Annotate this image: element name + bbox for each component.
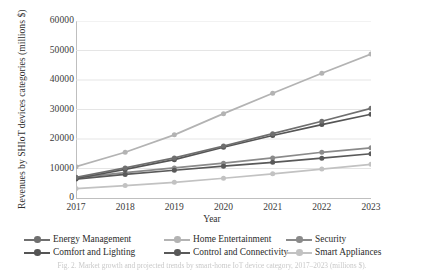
x-axis-tick-label: 2017: [56, 202, 96, 213]
data-point: [172, 180, 177, 185]
data-point: [319, 167, 324, 172]
data-point: [123, 183, 128, 188]
legend-item[interactable]: Security: [286, 234, 346, 245]
legend-color-swatch: [164, 248, 190, 257]
data-point: [369, 112, 372, 117]
x-axis-tick-label: 2021: [253, 202, 293, 213]
data-point: [221, 164, 226, 169]
chart-legend: Energy ManagementHome EntertainmentSecur…: [24, 234, 400, 260]
data-point: [270, 91, 275, 96]
data-point: [369, 162, 372, 167]
data-point: [172, 168, 177, 173]
x-axis-tick-label: 2020: [204, 202, 244, 213]
figure-caption: Fig. 2. Market growth and projected tren…: [0, 260, 424, 271]
y-axis-tick-label: 60000: [14, 16, 74, 26]
legend-color-swatch: [286, 248, 312, 257]
data-point: [270, 160, 275, 165]
data-point: [369, 145, 372, 150]
legend-item-label: Smart Appliances: [315, 247, 381, 258]
legend-item-label: Security: [315, 234, 346, 245]
legend-item[interactable]: Control and Connectivity: [164, 247, 288, 258]
data-point: [270, 131, 275, 136]
y-axis-tick-label: 50000: [14, 46, 74, 56]
data-point: [221, 144, 226, 149]
x-axis-tick-label: 2019: [154, 202, 194, 213]
legend-item[interactable]: Smart Appliances: [286, 247, 381, 258]
legend-item[interactable]: Energy Management: [24, 234, 131, 245]
y-axis-tick-label: 20000: [14, 134, 74, 144]
data-point: [319, 150, 324, 155]
legend-item-label: Control and Connectivity: [193, 247, 288, 258]
legend-color-swatch: [24, 248, 50, 257]
line-chart-svg: [76, 21, 371, 198]
data-point: [221, 111, 226, 116]
data-point: [319, 71, 324, 76]
data-point: [76, 186, 79, 191]
data-point: [123, 150, 128, 155]
legend-row: Comfort and LightingControl and Connecti…: [24, 247, 400, 259]
legend-color-swatch: [286, 235, 312, 244]
legend-color-swatch: [24, 235, 50, 244]
legend-color-swatch: [164, 235, 190, 244]
legend-item[interactable]: Comfort and Lighting: [24, 247, 135, 258]
figure-container: Revenues by SHIoT devices categories (mi…: [0, 0, 424, 271]
legend-item-label: Comfort and Lighting: [53, 247, 135, 258]
y-axis-tick-label: 30000: [14, 105, 74, 115]
data-point: [319, 119, 324, 124]
legend-item-label: Energy Management: [53, 234, 131, 245]
data-point: [369, 52, 372, 57]
plot-area: [76, 21, 371, 198]
legend-item-label: Home Entertainment: [193, 234, 271, 245]
data-point: [369, 151, 372, 156]
legend-item[interactable]: Home Entertainment: [164, 234, 271, 245]
x-axis-tick-label: 2022: [302, 202, 342, 213]
data-point: [270, 171, 275, 176]
legend-row: Energy ManagementHome EntertainmentSecur…: [24, 234, 400, 246]
y-axis-tick-label: 10000: [14, 164, 74, 174]
series-line: [76, 54, 371, 167]
x-axis-tick-label: 2018: [105, 202, 145, 213]
x-axis-tick-label: 2023: [351, 202, 391, 213]
data-point: [270, 155, 275, 160]
data-point: [123, 172, 128, 177]
data-point: [221, 176, 226, 181]
y-axis-tick-labels: 0100002000030000400005000060000: [8, 0, 74, 271]
data-point: [319, 156, 324, 161]
y-axis-tick-label: 40000: [14, 75, 74, 85]
data-point: [172, 132, 177, 137]
x-axis-title: Year: [0, 214, 424, 225]
x-axis-line: [76, 198, 371, 199]
data-point: [369, 106, 372, 111]
data-point: [123, 165, 128, 170]
data-point: [172, 155, 177, 160]
